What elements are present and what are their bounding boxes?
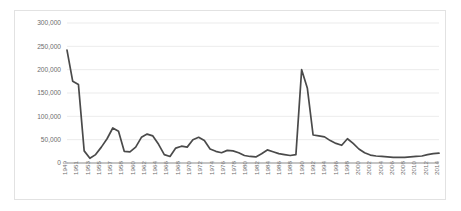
chart-card: 050,000100,000150,000200,000250,000300,0… [14,10,446,200]
y-axis-tick-labels: 050,000100,000150,000200,000250,000300,0… [37,19,61,166]
data-series-line [67,50,439,158]
y-axis-tick-label: 250,000 [37,43,61,50]
y-axis-tick-label: 300,000 [37,19,61,26]
chart-canvas: 050,000100,000150,000200,000250,000300,0… [15,11,447,201]
y-axis-tick-label: 100,000 [37,113,61,120]
y-axis-tick-label: 150,000 [37,89,61,96]
line-chart: 050,000100,000150,000200,000250,000300,0… [15,11,445,199]
y-axis-tick-label: 200,000 [37,66,61,73]
x-axis-tick-label: 1949 [61,161,68,175]
y-axis-tick-label: 50,000 [41,136,62,143]
gridlines [67,23,439,140]
